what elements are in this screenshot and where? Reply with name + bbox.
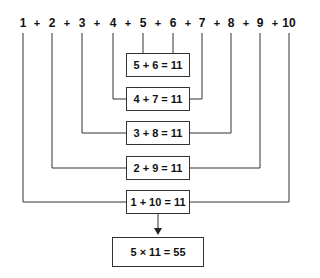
pair-box-2-9: 2 + 9 = 11	[126, 156, 190, 180]
plus-sign: +	[94, 16, 100, 30]
pair-box-1-10: 1 + 10 = 11	[126, 190, 190, 214]
number-6: 6	[170, 16, 177, 30]
pair-box-4-7: 4 + 7 = 11	[126, 87, 190, 111]
plus-sign: +	[243, 16, 249, 30]
plus-sign: +	[272, 16, 278, 30]
number-3: 3	[79, 16, 86, 30]
number-9: 9	[257, 16, 264, 30]
number-4: 4	[110, 16, 117, 30]
plus-sign: +	[155, 16, 161, 30]
plus-sign: +	[34, 16, 40, 30]
arrow-down-icon	[154, 228, 162, 235]
plus-sign: +	[64, 16, 70, 30]
result-box: 5 × 11 = 55	[112, 237, 204, 267]
plus-sign: +	[185, 16, 191, 30]
number-1: 1	[20, 16, 27, 30]
plus-sign: +	[125, 16, 131, 30]
number-8: 8	[228, 16, 235, 30]
pair-box-3-8: 3 + 8 = 11	[126, 121, 190, 145]
number-5: 5	[140, 16, 147, 30]
plus-sign: +	[214, 16, 220, 30]
pair-box-5-6: 5 + 6 = 11	[126, 53, 190, 77]
number-2: 2	[49, 16, 56, 30]
number-7: 7	[199, 16, 206, 30]
number-10: 10	[282, 16, 295, 30]
